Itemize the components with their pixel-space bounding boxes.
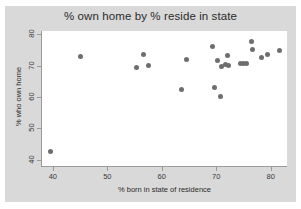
- y-axis-tick: [37, 160, 41, 161]
- x-axis-tick-label: 40: [43, 172, 63, 181]
- data-point: [215, 58, 220, 63]
- x-axis-tick: [162, 167, 163, 171]
- data-point: [179, 87, 184, 92]
- data-point: [218, 94, 223, 99]
- y-axis-tick: [37, 66, 41, 67]
- x-axis-tick: [53, 167, 54, 171]
- data-point: [277, 48, 282, 53]
- data-point: [78, 54, 83, 59]
- x-axis-tick-label: 50: [97, 172, 117, 181]
- plot-area: [42, 31, 287, 166]
- data-point: [259, 55, 264, 60]
- y-axis-tick-label: 50: [27, 121, 36, 135]
- y-axis-tick: [37, 34, 41, 35]
- scatter-chart: % own home by % reside in state 40506070…: [0, 0, 301, 209]
- data-point: [212, 85, 217, 90]
- y-axis-tick-label: 60: [27, 89, 36, 103]
- data-point: [141, 52, 146, 57]
- y-axis-title: % who own home: [14, 52, 23, 142]
- y-axis-tick-label: 80: [27, 27, 36, 41]
- data-point: [250, 47, 255, 52]
- x-axis-tick: [271, 167, 272, 171]
- y-axis-tick-label: 40: [27, 152, 36, 166]
- y-axis-tick: [37, 97, 41, 98]
- data-point: [184, 57, 189, 62]
- x-axis-tick-label: 60: [152, 172, 172, 181]
- data-point: [226, 63, 231, 68]
- y-axis-tick-label: 70: [27, 58, 36, 72]
- x-axis-tick-label: 80: [261, 172, 281, 181]
- data-point: [225, 53, 230, 58]
- x-axis-tick: [216, 167, 217, 171]
- data-point: [265, 52, 270, 57]
- y-axis-tick: [37, 128, 41, 129]
- x-axis-tick: [107, 167, 108, 171]
- chart-title: % own home by % reside in state: [5, 10, 296, 22]
- x-axis-line: [41, 166, 287, 167]
- x-axis-tick-label: 70: [206, 172, 226, 181]
- data-point: [210, 44, 215, 49]
- data-point: [146, 63, 151, 68]
- data-point: [48, 149, 53, 154]
- data-point: [249, 39, 254, 44]
- data-point: [244, 61, 249, 66]
- data-point: [134, 65, 139, 70]
- x-axis-title: % born in state of residence: [42, 185, 287, 194]
